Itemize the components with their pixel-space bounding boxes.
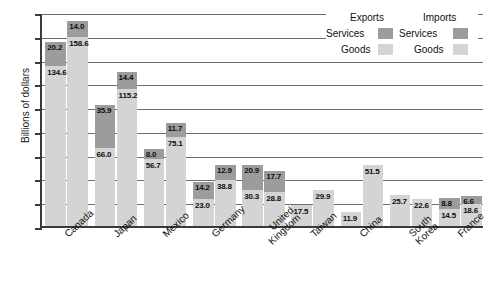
segment-goods: 14.5 (439, 209, 460, 226)
bar-imports-japan[interactable]: 115.214.4 (117, 12, 138, 226)
bar-exports-taiwan[interactable]: 17.5 (291, 12, 312, 226)
segment-goods-value: 11.9 (343, 214, 357, 223)
legend-header-imports: Imports (423, 12, 456, 23)
segment-goods: 11.9 (341, 212, 362, 226)
segment-services-value: 14.0 (69, 22, 84, 31)
y-axis-tick (35, 204, 42, 206)
segment-services: 20.2 (45, 42, 66, 66)
segment-goods-value: 14.5 (441, 211, 456, 220)
segment-services: 8.0 (144, 149, 165, 159)
segment-goods-value: 22.6 (414, 201, 429, 210)
legend-swatch-exports-goods (378, 44, 393, 55)
y-axis-tick (35, 157, 42, 159)
segment-goods: 23.0 (193, 199, 214, 226)
segment-goods-value: 38.8 (217, 182, 232, 191)
legend-label-imports-goods: Goods (414, 44, 443, 55)
segment-goods: 30.3 (242, 190, 263, 226)
segment-services-value: 20.2 (47, 43, 62, 52)
chart-legend: Exports Imports Services Services Goods … (326, 12, 478, 58)
segment-services-value: 20.9 (244, 166, 259, 175)
segment-services-value: 6.6 (463, 197, 474, 206)
segment-services: 14.0 (67, 21, 88, 38)
segment-goods: 115.2 (117, 89, 138, 226)
legend-swatch-imports-services (453, 28, 468, 39)
segment-services-value: 11.7 (168, 124, 182, 133)
legend-swatch-imports-goods (453, 44, 468, 55)
segment-services: 14.2 (193, 182, 214, 199)
segment-services: 8.8 (439, 198, 460, 208)
segment-goods: 134.6 (45, 66, 66, 226)
segment-services: 17.7 (264, 171, 285, 192)
bar-exports-germany[interactable]: 23.014.2 (193, 12, 214, 226)
y-axis-tick (35, 85, 42, 87)
segment-goods-value: 75.1 (168, 139, 183, 148)
segment-services-value: 35.9 (97, 106, 112, 115)
y-axis-tick (35, 14, 42, 16)
segment-goods-value: 51.5 (365, 167, 380, 176)
segment-goods-value: 115.2 (119, 91, 138, 100)
y-axis-tick (35, 228, 42, 230)
bar-imports-canada[interactable]: 158.614.0 (67, 12, 88, 226)
segment-services: 12.9 (215, 165, 236, 180)
segment-services: 35.9 (95, 105, 116, 148)
segment-goods-value: 23.0 (195, 201, 210, 210)
legend-header-exports: Exports (350, 12, 384, 23)
bar-exports-mexico[interactable]: 56.78.0 (144, 12, 165, 226)
y-axis-tick (35, 38, 42, 40)
bar-imports-united-kingdom[interactable]: 28.817.7 (264, 12, 285, 226)
bar-imports-germany[interactable]: 38.812.9 (215, 12, 236, 226)
segment-goods-value: 56.7 (146, 161, 161, 170)
segment-goods: 56.7 (144, 159, 165, 226)
y-axis-tick (35, 133, 42, 135)
segment-goods-value: 29.9 (315, 192, 330, 201)
segment-services-value: 8.8 (441, 199, 452, 208)
segment-services-value: 14.2 (195, 183, 210, 192)
segment-goods: 66.0 (95, 148, 116, 226)
bar-exports-japan[interactable]: 66.035.9 (95, 12, 116, 226)
legend-label-imports-services: Services (399, 28, 437, 39)
y-axis-tick (35, 62, 42, 64)
bar-exports-united-kingdom[interactable]: 30.320.9 (242, 12, 263, 226)
legend-label-exports-services: Services (326, 28, 364, 39)
segment-services: 20.9 (242, 165, 263, 190)
segment-goods-value: 30.3 (244, 192, 259, 201)
y-axis-tick (35, 109, 42, 111)
segment-services-value: 17.7 (266, 172, 281, 181)
segment-services-value: 12.9 (217, 166, 232, 175)
segment-goods: 25.7 (390, 195, 411, 226)
legend-label-exports-goods: Goods (341, 44, 370, 55)
segment-goods-value: 66.0 (97, 150, 112, 159)
legend-swatch-exports-services (378, 28, 393, 39)
chart-root: Billions of dollars 134.620.2158.614.066… (0, 0, 486, 289)
bar-exports-canada[interactable]: 134.620.2 (45, 12, 66, 226)
y-axis-title: Billions of dollars (20, 36, 31, 176)
bar-imports-mexico[interactable]: 75.111.7 (166, 12, 187, 226)
segment-services-value: 14.4 (119, 73, 134, 82)
segment-services: 6.6 (461, 196, 482, 204)
segment-goods-value: 158.6 (69, 39, 88, 48)
segment-goods-value: 28.8 (266, 194, 281, 203)
segment-services: 11.7 (166, 123, 187, 137)
segment-services-value: 8.0 (146, 150, 157, 159)
segment-goods-value: 25.7 (392, 197, 407, 206)
segment-goods-value: 134.6 (47, 68, 66, 77)
segment-services: 14.4 (117, 72, 138, 89)
y-axis-tick (35, 180, 42, 182)
segment-goods: 158.6 (67, 37, 88, 226)
